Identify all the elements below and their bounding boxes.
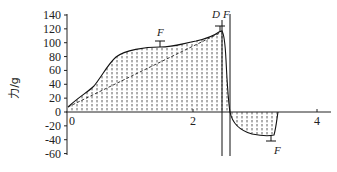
annotation-f-upper: F — [156, 26, 164, 38]
error-bar-upper — [155, 41, 165, 47]
y-tick-label: 100 — [43, 36, 61, 50]
force-chart: 140120100806040200-20-40-60 力/g 0 2 4 F … — [0, 0, 337, 172]
y-tick-label: -40 — [45, 133, 61, 147]
y-tick-label: 120 — [43, 22, 61, 36]
y-tick-label: 140 — [43, 8, 61, 22]
y-tick-label: 20 — [49, 91, 61, 105]
negative-area — [230, 112, 278, 136]
annotation-d: D — [211, 8, 220, 20]
annotation-f: F — [222, 8, 230, 20]
y-tick-label: 60 — [49, 63, 61, 77]
positive-area — [68, 31, 230, 112]
annotation-f-lower: F — [273, 144, 281, 156]
y-tick-label: 80 — [49, 50, 61, 64]
y-axis-title: 力/g — [8, 77, 21, 99]
x-tick-4: 4 — [314, 114, 320, 128]
y-tick-label: 0 — [55, 105, 61, 119]
error-bar-peak — [215, 26, 225, 32]
y-axis: 140120100806040200-20-40-60 — [43, 8, 67, 161]
y-tick-label: -60 — [45, 147, 61, 161]
x-tick-2: 2 — [190, 114, 196, 128]
y-tick-label: -20 — [45, 119, 61, 133]
x-tick-0: 0 — [69, 114, 75, 128]
y-tick-label: 40 — [49, 77, 61, 91]
